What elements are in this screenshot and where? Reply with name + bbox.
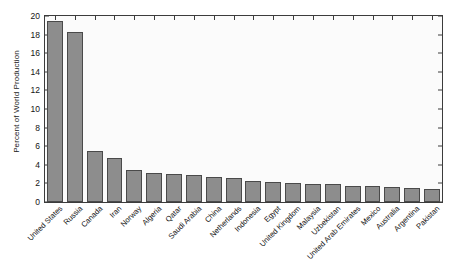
x-tick-label: Malaysia — [295, 204, 323, 232]
x-tick-mark-top — [353, 16, 354, 20]
x-tick-label: Canada — [79, 204, 104, 229]
x-tick-label: Egypt — [263, 204, 283, 224]
bar — [47, 21, 63, 202]
y-tick-label: 4 — [35, 160, 40, 170]
bar — [166, 174, 182, 202]
bar — [285, 183, 301, 202]
bar — [146, 173, 162, 202]
x-tick-label: Russia — [61, 204, 84, 227]
bar — [384, 187, 400, 202]
bar — [404, 188, 420, 202]
y-tick-mark-right — [438, 109, 442, 110]
x-tick-mark-top — [293, 16, 294, 20]
bar — [226, 178, 242, 202]
x-tick-label: Saudi Arabia — [166, 204, 203, 241]
plot-area: 02468101214161820 — [44, 15, 443, 203]
bar — [365, 186, 381, 202]
x-tick-mark-top — [174, 16, 175, 20]
y-tick-mark-right — [438, 164, 442, 165]
y-tick-label: 6 — [35, 141, 40, 151]
bar — [126, 170, 142, 202]
x-tick-mark-top — [75, 16, 76, 20]
x-tick-mark-top — [214, 16, 215, 20]
x-tick-mark-top — [373, 16, 374, 20]
x-tick-mark-top — [432, 16, 433, 20]
x-tick-label: Uzbekistan — [309, 204, 342, 237]
bar — [305, 184, 321, 202]
x-tick-label: United Kingdom — [258, 204, 303, 249]
y-tick-mark-right — [438, 16, 442, 17]
x-tick-mark-top — [134, 16, 135, 20]
y-tick-label: 14 — [31, 67, 40, 77]
y-tick-mark-right — [438, 71, 442, 72]
y-tick-mark-right — [438, 90, 442, 91]
y-tick-mark-right — [438, 146, 442, 147]
x-tick-label: Netherlands — [208, 204, 243, 239]
x-tick-mark-top — [253, 16, 254, 20]
x-tick-label: United Arab Emirates — [305, 204, 362, 261]
x-tick-mark-top — [114, 16, 115, 20]
x-tick-label: United States — [26, 204, 65, 243]
x-tick-mark-top — [194, 16, 195, 20]
y-tick-mark — [45, 16, 49, 17]
bar — [186, 175, 202, 202]
bar — [325, 184, 341, 202]
x-tick-label: Mexico — [359, 204, 382, 227]
bar — [345, 186, 361, 202]
y-tick-label: 8 — [35, 123, 40, 133]
x-tick-label: Pakistan — [414, 204, 441, 231]
x-tick-mark-top — [154, 16, 155, 20]
y-tick-label: 18 — [31, 30, 40, 40]
x-tick-mark-top — [55, 16, 56, 20]
x-tick-label: Indonesia — [233, 204, 263, 234]
y-tick-label: 16 — [31, 48, 40, 58]
y-tick-mark-right — [438, 53, 442, 54]
x-tick-label: Norway — [119, 204, 144, 229]
y-tick-mark-right — [438, 34, 442, 35]
y-tick-mark-right — [438, 183, 442, 184]
x-tick-label: Iran — [108, 204, 124, 220]
x-tick-label: China — [203, 204, 223, 224]
x-tick-mark-top — [273, 16, 274, 20]
x-tick-mark-top — [333, 16, 334, 20]
bar — [87, 151, 103, 202]
x-axis-labels: United StatesRussiaCanadaIranNorwayAlger… — [44, 204, 443, 280]
bar — [67, 32, 83, 202]
x-tick-mark-top — [95, 16, 96, 20]
x-tick-mark-top — [412, 16, 413, 20]
y-tick-label: 12 — [31, 85, 40, 95]
y-tick-label: 20 — [31, 11, 40, 21]
bar-chart-figure: Percent of World Production 024681012141… — [0, 0, 473, 280]
x-tick-mark-top — [392, 16, 393, 20]
x-tick-mark-top — [234, 16, 235, 20]
y-tick-label: 2 — [35, 178, 40, 188]
x-tick-label: Argentina — [392, 204, 421, 233]
bar — [206, 177, 222, 202]
y-tick-mark-right — [438, 127, 442, 128]
y-tick-label: 10 — [31, 104, 40, 114]
x-tick-label: Algeria — [140, 204, 163, 227]
bar — [424, 189, 440, 202]
y-tick-label: 0 — [35, 197, 40, 207]
x-tick-mark-top — [313, 16, 314, 20]
bar — [265, 182, 281, 202]
bar — [245, 181, 261, 202]
bar — [107, 158, 123, 202]
x-tick-label: Australia — [374, 204, 401, 231]
x-tick-label: Qatar — [164, 204, 184, 224]
y-axis-title: Percent of World Production — [6, 0, 26, 203]
